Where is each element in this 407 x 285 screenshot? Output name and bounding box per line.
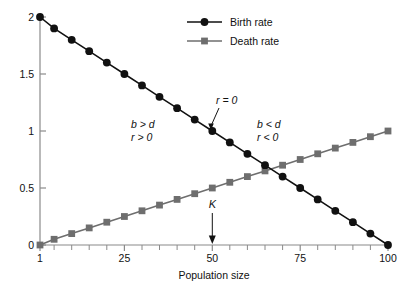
- annotation-right-b-lt-d: b < d: [257, 118, 282, 130]
- annotation-left-r-gt-0: r > 0: [131, 131, 152, 143]
- x-tick-label-3: 75: [294, 252, 306, 264]
- y-tick-label-0: 0: [28, 239, 34, 251]
- legend-label-death-rate: Death rate: [230, 35, 279, 47]
- y-tick-label-3: 1.5: [19, 68, 34, 80]
- population-rate-chart: 0 0.5 1 1.5 2 1 25 50 75 100 Population …: [0, 0, 407, 285]
- y-tick-label-4: 2: [28, 11, 34, 23]
- y-tick-label-1: 0.5: [19, 182, 34, 194]
- annotation-carrying-capacity-label: K: [209, 198, 217, 210]
- x-tick-label-0: 1: [37, 252, 43, 264]
- legend-label-birth-rate: Birth rate: [230, 16, 273, 28]
- x-axis-title: Population size: [178, 269, 249, 281]
- annotation-r-equals-zero: r = 0: [216, 94, 237, 106]
- annotation-right-r-lt-0: r < 0: [257, 131, 278, 143]
- x-tick-label-1: 25: [119, 252, 131, 264]
- y-tick-label-2: 1: [28, 125, 34, 137]
- x-tick-label-2: 50: [206, 252, 218, 264]
- circle-marker-icon: [201, 18, 209, 26]
- chart-figure: 0 0.5 1 1.5 2 1 25 50 75 100 Population …: [0, 0, 407, 285]
- x-tick-label-4: 100: [379, 252, 397, 264]
- square-marker-icon: [201, 38, 208, 45]
- annotation-left-b-gt-d: b > d: [131, 118, 156, 130]
